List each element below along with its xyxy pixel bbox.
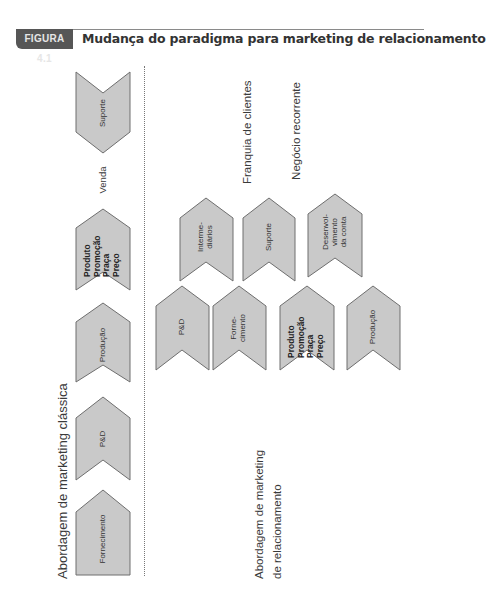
relationship-approach-label-line1: Abordagem de marketing (250, 455, 268, 579)
classic-chevron-4ps-label: Produto Promoção Praça Preço (83, 217, 123, 277)
outcome-franquia-label: Franquia de clientes (240, 84, 254, 184)
outcome-negocio-label: Negócio recorrente (289, 81, 303, 181)
classic-chevron-suporte-label: Suporte (98, 73, 108, 153)
classic-chevron-fornecimento-label: Fornecimento (98, 499, 108, 579)
rel-chevron-fornecimento-label: Forne- cimento (229, 298, 249, 358)
rel-chevron-producao-label: Produção (368, 297, 378, 357)
rel-chevron-suporte-label: Suporte (264, 207, 274, 267)
divider-dotted-line (144, 66, 145, 576)
rel-chevron-desenvolvimento-label: Desenvol- vimento da conta (321, 202, 349, 262)
rel-chevron-pd-label: P&D (177, 297, 187, 357)
venda-label: Venda (97, 155, 109, 205)
relationship-approach-label: Abordagem de marketing de relacionamento (250, 455, 286, 579)
rel-chevron-intermediarios-label: Interme- diários (196, 207, 216, 267)
rel-chevron-4ps-label: Produto Promoção Praça Preço (287, 298, 327, 358)
classic-approach-label: Abordagem de marketing clássica (55, 409, 71, 579)
classic-chevron-pd-label: P&D (98, 399, 108, 479)
classic-chevron-producao-label: Produção (98, 305, 108, 385)
relationship-approach-label-line2: de relacionamento (268, 455, 286, 579)
